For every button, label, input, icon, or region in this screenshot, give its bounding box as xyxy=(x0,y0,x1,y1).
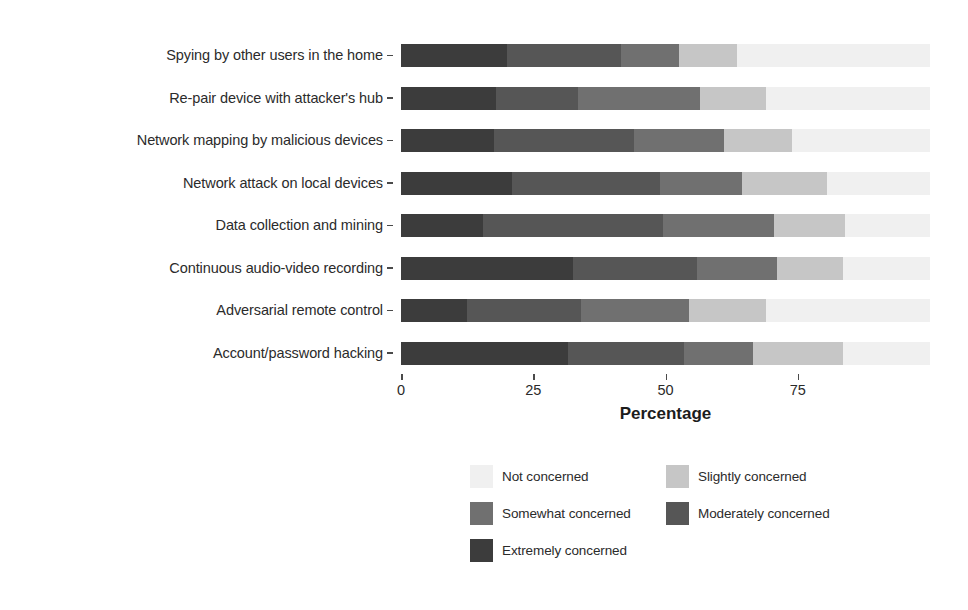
stacked-bar[interactable] xyxy=(401,129,930,152)
bar-segment[interactable] xyxy=(660,172,742,195)
bar-segment[interactable] xyxy=(827,172,930,195)
stacked-bar[interactable] xyxy=(401,44,930,67)
bar-segment[interactable] xyxy=(700,87,766,110)
x-axis-tick-mark xyxy=(666,374,668,380)
y-axis-tick-label-text: Data collection and mining xyxy=(216,217,383,233)
y-axis-tick-mark xyxy=(387,140,393,142)
bar-segment[interactable] xyxy=(568,342,684,365)
bar-segment[interactable] xyxy=(737,44,930,67)
y-axis-tick-label: Continuous audio-video recording xyxy=(60,247,393,290)
bar-segment[interactable] xyxy=(689,299,766,322)
bar-segment[interactable] xyxy=(742,172,827,195)
bar-segment[interactable] xyxy=(578,87,700,110)
bar-segment[interactable] xyxy=(401,172,512,195)
bar-segment[interactable] xyxy=(512,172,660,195)
bar-segment[interactable] xyxy=(401,87,496,110)
plot-area xyxy=(401,34,930,374)
y-axis-tick-mark xyxy=(387,97,393,99)
bar-segment[interactable] xyxy=(581,299,689,322)
bar-segment[interactable] xyxy=(792,129,930,152)
bar-segment[interactable] xyxy=(467,299,581,322)
y-axis-tick-mark xyxy=(387,55,393,57)
y-axis-tick-label-text: Network attack on local devices xyxy=(183,175,383,191)
bar-segment[interactable] xyxy=(496,87,578,110)
legend-item-label: Moderately concerned xyxy=(698,506,830,521)
bar-segment[interactable] xyxy=(766,299,930,322)
x-axis-tick-label: 75 xyxy=(790,382,806,398)
legend-item[interactable]: Not concerned xyxy=(470,465,666,488)
bar-row xyxy=(401,289,930,332)
bar-segment[interactable] xyxy=(483,214,663,237)
bar-segment[interactable] xyxy=(684,342,753,365)
y-axis-tick-mark xyxy=(387,310,393,312)
bar-segment[interactable] xyxy=(766,87,930,110)
y-axis-tick-label-text: Account/password hacking xyxy=(213,345,383,361)
bar-row xyxy=(401,34,930,77)
stacked-bar[interactable] xyxy=(401,257,930,280)
bar-row xyxy=(401,332,930,375)
bar-segment[interactable] xyxy=(843,342,930,365)
legend-item-label: Somewhat concerned xyxy=(502,506,631,521)
legend-swatch xyxy=(666,465,689,488)
legend-swatch xyxy=(470,502,493,525)
y-axis-tick-label-text: Continuous audio-video recording xyxy=(169,260,383,276)
legend-swatch xyxy=(470,465,493,488)
bar-segment[interactable] xyxy=(401,214,483,237)
bar-segment[interactable] xyxy=(401,257,573,280)
x-axis-tick-mark xyxy=(533,374,535,380)
legend-item-label: Not concerned xyxy=(502,469,589,484)
y-axis-tick-label-text: Network mapping by malicious devices xyxy=(137,132,383,148)
y-axis-tick-mark xyxy=(387,225,393,227)
bar-segment[interactable] xyxy=(401,44,507,67)
bar-segment[interactable] xyxy=(724,129,793,152)
bar-row xyxy=(401,204,930,247)
legend-item[interactable]: Extremely concerned xyxy=(470,539,666,562)
y-axis-tick-label: Spying by other users in the home xyxy=(60,34,393,77)
stacked-bar[interactable] xyxy=(401,172,930,195)
stacked-bar[interactable] xyxy=(401,299,930,322)
bar-segment[interactable] xyxy=(679,44,737,67)
stacked-bar[interactable] xyxy=(401,87,930,110)
y-axis-tick-label: Network mapping by malicious devices xyxy=(60,119,393,162)
bar-segment[interactable] xyxy=(843,257,930,280)
bar-segment[interactable] xyxy=(774,214,845,237)
bar-segment[interactable] xyxy=(401,299,467,322)
bar-segment[interactable] xyxy=(663,214,774,237)
x-axis-tick-label: 0 xyxy=(397,382,405,398)
y-axis-tick-label-text: Adversarial remote control xyxy=(216,302,383,318)
x-axis-title: Percentage xyxy=(401,404,930,424)
y-axis-tick-label-text: Spying by other users in the home xyxy=(166,47,383,63)
legend-item-label: Slightly concerned xyxy=(698,469,807,484)
bar-segment[interactable] xyxy=(634,129,724,152)
bar-segment[interactable] xyxy=(753,342,843,365)
legend-item[interactable]: Somewhat concerned xyxy=(470,502,666,525)
legend-item[interactable]: Moderately concerned xyxy=(666,502,862,525)
legend-item[interactable]: Slightly concerned xyxy=(666,465,862,488)
x-axis-tick-mark xyxy=(798,374,800,380)
y-axis-tick-mark xyxy=(387,267,393,269)
bar-segment[interactable] xyxy=(507,44,621,67)
stacked-bar[interactable] xyxy=(401,342,930,365)
chart-legend: Not concernedSlightly concernedSomewhat … xyxy=(470,458,890,569)
legend-swatch xyxy=(666,502,689,525)
bar-segment[interactable] xyxy=(494,129,634,152)
stacked-bar[interactable] xyxy=(401,214,930,237)
stacked-bar-chart-figure: Privacy/Security Attacks Spying by other… xyxy=(0,0,968,610)
x-axis-tick-mark xyxy=(401,374,403,380)
bar-row xyxy=(401,162,930,205)
y-axis-tick-label: Network attack on local devices xyxy=(60,162,393,205)
y-axis-tick-label-text: Re-pair device with attacker's hub xyxy=(169,90,383,106)
bar-segment[interactable] xyxy=(573,257,697,280)
legend-swatch xyxy=(470,539,493,562)
bar-segment[interactable] xyxy=(621,44,679,67)
bar-segment[interactable] xyxy=(401,129,494,152)
bar-segment[interactable] xyxy=(845,214,930,237)
bar-segment[interactable] xyxy=(401,342,568,365)
y-axis-tick-label: Adversarial remote control xyxy=(60,289,393,332)
bar-segment[interactable] xyxy=(697,257,776,280)
bar-segment[interactable] xyxy=(777,257,843,280)
y-axis-tick-mark xyxy=(387,352,393,354)
y-axis-tick-label: Account/password hacking xyxy=(60,332,393,375)
bar-row xyxy=(401,247,930,290)
y-axis-tick-labels: Spying by other users in the homeRe-pair… xyxy=(60,34,393,374)
